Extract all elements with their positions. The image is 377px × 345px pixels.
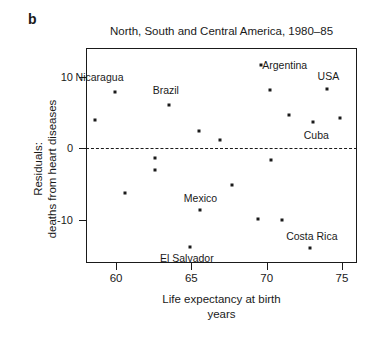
x-axis-tick	[191, 263, 192, 270]
y-axis-tick-label: 10	[33, 71, 73, 83]
data-point	[231, 183, 234, 186]
y-axis-tick-label: 0	[33, 142, 73, 154]
data-point	[312, 120, 315, 123]
zero-reference-line	[86, 148, 357, 149]
y-axis-label-line1: Residuals:	[31, 62, 45, 277]
point-annotation: Mexico	[184, 192, 217, 204]
y-axis-tick	[79, 148, 86, 149]
data-point	[113, 90, 116, 93]
scatter-plot-area: NicaraguaBrazilArgentinaUSACubaMexicoEl …	[86, 48, 357, 263]
data-point	[197, 130, 200, 133]
data-point	[309, 246, 312, 249]
point-annotation: Costa Rica	[286, 230, 337, 242]
data-point	[218, 139, 221, 142]
data-point	[339, 117, 342, 120]
chart-title: North, South and Central America, 1980–8…	[86, 25, 357, 37]
data-point	[268, 88, 271, 91]
x-axis-tick-label: 70	[247, 272, 287, 284]
x-axis-label: Life expectancy at birth years	[86, 292, 357, 322]
x-axis-label-line2: years	[86, 307, 357, 322]
data-point	[188, 245, 191, 248]
y-axis-label-line2: deaths from heart diseases	[45, 62, 59, 277]
point-annotation: Brazil	[153, 84, 179, 96]
x-axis-tick	[342, 263, 343, 270]
data-point	[154, 157, 157, 160]
x-axis-tick-label: 75	[322, 272, 362, 284]
data-point	[124, 191, 127, 194]
data-point	[199, 208, 202, 211]
point-annotation: El Salvador	[160, 252, 214, 264]
x-axis-label-line1: Life expectancy at birth	[86, 292, 357, 307]
y-axis-tick	[79, 220, 86, 221]
y-axis-tick-label: -10	[33, 214, 73, 226]
y-axis-tick	[79, 77, 86, 78]
data-point	[154, 168, 157, 171]
data-point	[288, 114, 291, 117]
data-point	[94, 118, 97, 121]
data-point	[256, 217, 259, 220]
data-point	[280, 219, 283, 222]
x-axis-tick-label: 65	[171, 272, 211, 284]
x-axis-tick	[116, 263, 117, 270]
panel-label: b	[28, 11, 37, 27]
figure-panel-b: b North, South and Central America, 1980…	[0, 0, 377, 345]
y-axis-label: Residuals: deaths from heart diseases	[31, 62, 59, 277]
x-axis-tick	[267, 263, 268, 270]
data-point	[270, 158, 273, 161]
data-point	[325, 87, 328, 90]
point-annotation: Argentina	[262, 59, 307, 71]
x-axis-tick-label: 60	[96, 272, 136, 284]
point-annotation: USA	[318, 70, 340, 82]
point-annotation: Cuba	[304, 129, 329, 141]
data-point	[167, 103, 170, 106]
